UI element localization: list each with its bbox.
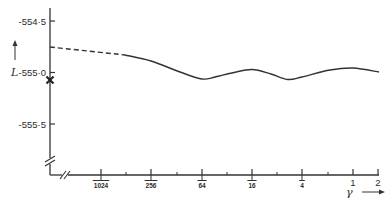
y-axis: -554·5-555·0-555·5 <box>19 8 55 175</box>
x-tick-label: 256 <box>146 182 157 189</box>
x-tick-label: 4 <box>300 182 304 189</box>
x-tick-label: 1024 <box>94 182 109 189</box>
y-tick-label: -555·0 <box>19 67 46 78</box>
series-extrapolated <box>50 47 125 55</box>
x-axis: 10242566416412 <box>50 169 381 189</box>
y-tick-label: -554·5 <box>19 16 46 27</box>
y-axis-title: L <box>10 40 18 79</box>
x-tick-label: 2 <box>375 177 380 188</box>
y-axis-label: L <box>10 66 18 79</box>
plot-area <box>47 47 380 84</box>
x-tick-label: 16 <box>248 182 256 189</box>
up-arrow-icon <box>13 40 18 46</box>
chart: -554·5-555·0-555·5 L 10242566416412 γ <box>0 0 387 198</box>
right-arrow-icon <box>379 190 385 195</box>
x-axis-label: γ <box>346 186 353 198</box>
x-tick-label: 64 <box>198 182 206 189</box>
series-computed <box>125 55 379 80</box>
y-tick-label: -555·5 <box>19 119 46 130</box>
